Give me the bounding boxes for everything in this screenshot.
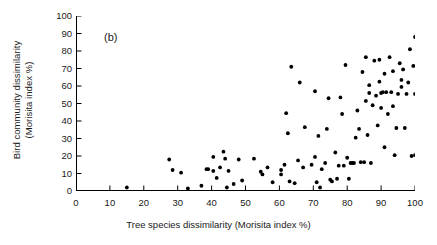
data-point	[288, 179, 292, 183]
data-point	[352, 161, 356, 165]
x-tick-label: 20	[129, 197, 159, 208]
data-point	[223, 157, 227, 161]
data-point	[316, 134, 320, 138]
data-point	[371, 103, 375, 107]
data-point	[325, 127, 329, 131]
data-point	[364, 99, 368, 103]
data-point	[361, 70, 365, 74]
x-tick-label: 100	[400, 197, 430, 208]
data-point	[283, 163, 287, 167]
x-tick-label: 30	[163, 197, 193, 208]
data-point	[301, 165, 305, 169]
y-tick-label: 90	[48, 29, 72, 39]
data-point	[211, 155, 215, 159]
y-tick-label: 70	[48, 64, 72, 74]
data-point	[289, 65, 293, 69]
data-point	[298, 81, 302, 85]
data-point	[379, 106, 383, 110]
data-point	[362, 160, 366, 164]
data-point	[413, 35, 415, 39]
data-point	[310, 163, 314, 167]
data-point	[376, 123, 380, 127]
data-point	[335, 177, 339, 181]
x-axis-label: Tree species dissimilarity (Morisita ind…	[0, 219, 437, 230]
data-point	[206, 167, 210, 171]
data-point	[271, 180, 275, 184]
data-point	[364, 55, 368, 59]
data-point	[381, 90, 385, 94]
y-tick-label: 10	[48, 169, 72, 179]
data-point	[252, 157, 256, 161]
data-point	[237, 158, 241, 162]
data-point	[398, 61, 402, 65]
data-point	[218, 165, 222, 169]
data-point	[315, 180, 319, 184]
x-tick-label: 0	[61, 197, 91, 208]
data-point	[406, 81, 410, 85]
y-tick-label: 20	[48, 151, 72, 161]
data-point	[279, 168, 283, 172]
data-point	[342, 164, 346, 168]
axis-spines	[76, 16, 415, 191]
data-point	[313, 155, 317, 159]
data-point	[405, 92, 409, 96]
data-point	[179, 171, 183, 175]
data-point	[391, 104, 395, 108]
data-point	[384, 90, 388, 94]
data-point	[125, 186, 129, 190]
x-tick-label: 10	[95, 197, 125, 208]
y-tick-label: 30	[48, 134, 72, 144]
data-point	[333, 151, 337, 155]
data-point	[389, 90, 393, 94]
data-point	[303, 125, 307, 129]
data-point	[388, 55, 392, 59]
data-point	[344, 63, 348, 67]
plot-svg	[76, 16, 415, 191]
y-axis-label-line2: (Morisita index %)	[23, 41, 35, 160]
data-point	[400, 78, 404, 82]
data-point	[393, 153, 397, 157]
data-point	[369, 161, 373, 165]
data-point	[357, 127, 361, 131]
data-point	[286, 131, 290, 135]
data-point	[411, 64, 415, 68]
data-point	[339, 95, 343, 99]
data-point	[171, 168, 175, 172]
data-point	[266, 165, 270, 169]
data-point	[293, 181, 297, 185]
data-point	[372, 59, 376, 63]
data-point	[261, 172, 265, 176]
data-point	[340, 112, 344, 116]
scatter-plot-figure: Bird community dissimilarity (Morisita i…	[0, 0, 437, 245]
data-point	[378, 80, 382, 84]
y-axis-ticks	[77, 16, 82, 191]
data-point	[240, 179, 244, 183]
data-point	[318, 186, 322, 190]
data-point	[386, 112, 390, 116]
data-point	[367, 83, 371, 87]
data-point	[367, 91, 371, 95]
data-point	[396, 92, 400, 96]
data-point	[355, 109, 359, 113]
data-point	[400, 85, 404, 89]
y-axis-label-line1: Bird community dissimilarity	[11, 41, 23, 160]
data-point	[313, 89, 317, 93]
y-tick-label: 50	[48, 99, 72, 109]
x-axis-tick-labels: 0102030405060708090100	[0, 197, 437, 213]
x-tick-label: 40	[197, 197, 227, 208]
y-tick-label: 60	[48, 81, 72, 91]
data-point	[323, 161, 327, 165]
data-point	[354, 136, 358, 140]
data-point	[401, 67, 405, 71]
data-point	[167, 158, 171, 162]
data-point	[284, 111, 288, 115]
y-tick-label: 100	[48, 11, 72, 21]
data-point	[296, 158, 300, 162]
y-tick-label: 40	[48, 116, 72, 126]
data-point	[410, 154, 414, 158]
data-point	[327, 96, 331, 100]
data-point	[222, 150, 226, 154]
y-tick-label: 80	[48, 46, 72, 56]
data-point	[403, 126, 407, 130]
x-tick-label: 80	[332, 197, 362, 208]
